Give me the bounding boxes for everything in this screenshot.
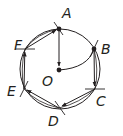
chord-b-c bbox=[94, 49, 95, 86]
point-b-dot bbox=[92, 47, 97, 52]
label-o: O bbox=[42, 73, 53, 89]
label-c: C bbox=[96, 93, 106, 109]
chord-e-f bbox=[24, 52, 25, 89]
label-d: D bbox=[48, 113, 59, 129]
chord-f-a bbox=[25, 30, 56, 49]
arc-o-b bbox=[59, 49, 94, 70]
hexagon-construction-diagram: A B C D E F O bbox=[0, 0, 123, 136]
label-e: E bbox=[7, 83, 16, 99]
label-f: F bbox=[14, 37, 23, 53]
point-a-dot bbox=[57, 27, 62, 32]
center-o-dot bbox=[57, 68, 62, 73]
label-b: B bbox=[101, 41, 111, 57]
chord-c-d bbox=[62, 89, 95, 106]
label-a: A bbox=[61, 5, 72, 21]
